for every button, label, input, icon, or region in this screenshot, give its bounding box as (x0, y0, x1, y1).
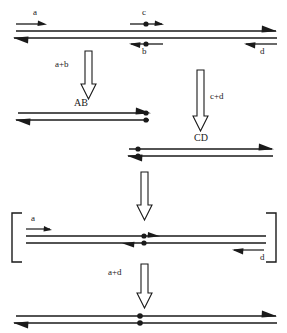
label-reaction-cd: c+d (210, 92, 224, 101)
label-bracket-segment-a: a (31, 214, 35, 223)
stage-3-bracketed-intermediate (12, 213, 276, 262)
segment-a-arrow (16, 21, 47, 27)
reaction-arrow-ab (81, 51, 96, 99)
segment-c-arrow (130, 21, 164, 27)
label-segment-c: c (142, 8, 146, 17)
stage-2-ab-duplex (15, 108, 151, 126)
cd-bottom-nick-dot (135, 153, 140, 158)
stage-1-parental-duplex (13, 21, 277, 49)
label-product-cd: CD (194, 133, 208, 143)
intermediate-nick-top (141, 232, 160, 239)
ab-top-arrowhead (136, 108, 152, 115)
stage-4-final-duplex (13, 311, 277, 329)
label-bracket-segment-d: d (260, 253, 265, 262)
reaction-arrow-join (137, 172, 152, 220)
reaction-arrow-cd (193, 70, 208, 131)
final-top-nick-dot (137, 313, 143, 319)
label-product-ab: AB (74, 98, 88, 108)
stage-2-cd-duplex (127, 144, 274, 162)
intermediate-nick-bottom (122, 240, 147, 247)
final-bottom-nick-dot (137, 320, 143, 326)
diagram-canvas: a c b d a+b c+d AB CD a d a+d (0, 0, 287, 333)
label-segment-d: d (260, 47, 265, 56)
reaction-arrow-ad (137, 264, 152, 308)
ab-bottom-nick-dot (143, 117, 148, 122)
label-segment-b: b (142, 47, 147, 56)
cd-top-nick-dot (135, 146, 140, 151)
ab-top-nick-dot (143, 110, 148, 115)
left-bracket (12, 213, 22, 262)
label-segment-a-top: a (33, 8, 37, 17)
label-reaction-ad: a+d (108, 268, 122, 277)
label-reaction-ab: a+b (55, 60, 69, 69)
right-bracket (266, 213, 276, 262)
bracket-segment-a-arrow (26, 226, 52, 232)
